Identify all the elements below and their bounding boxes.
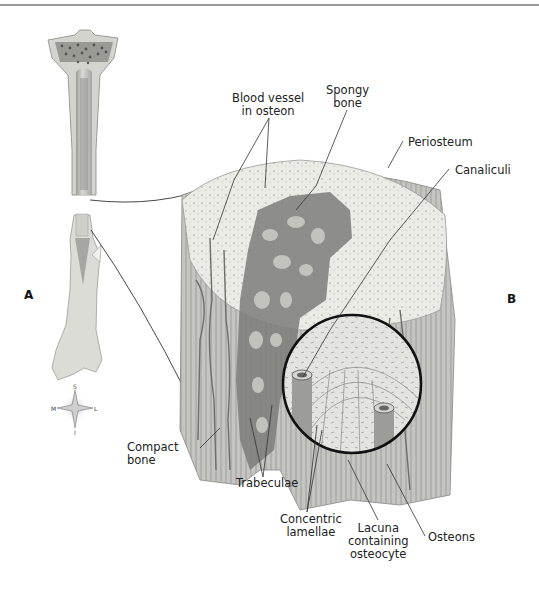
- compass-rose-icon: [57, 390, 93, 428]
- compass-superior: S: [73, 383, 77, 390]
- label-concentric-lamellae: Concentric lamellae: [280, 513, 342, 539]
- label-osteons: Osteons: [428, 531, 475, 544]
- compass-medial: M: [51, 405, 56, 412]
- bone-section-top: [48, 30, 118, 195]
- panel-label-a: A: [24, 288, 33, 302]
- label-blood-vessel: Blood vessel in osteon: [232, 92, 304, 118]
- panel-label-b: B: [507, 292, 516, 306]
- label-trabeculae: Trabeculae: [236, 477, 298, 490]
- bone-illustration: [0, 0, 539, 593]
- label-compact-bone: Compact bone: [127, 441, 178, 467]
- label-canaliculi: Canaliculi: [455, 164, 511, 177]
- connector-bottom-line: [91, 230, 190, 400]
- label-periosteum: Periosteum: [408, 136, 473, 149]
- compass-inferior: I: [74, 429, 76, 436]
- compass-lateral: L: [94, 405, 97, 412]
- bone-whole: [52, 214, 102, 380]
- label-spongy-bone: Spongy bone: [326, 84, 369, 110]
- label-lacuna: Lacuna containing osteocyte: [348, 522, 408, 561]
